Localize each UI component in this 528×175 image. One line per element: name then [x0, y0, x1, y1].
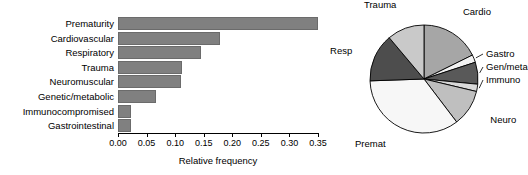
- pie-slice-label: Gen/meta: [486, 61, 528, 72]
- pie-chart-panel: CardioGastroGen/metaImmunoNeuroPrematRes…: [330, 0, 526, 175]
- pie-slice-label: Premat: [355, 138, 386, 149]
- bar-rect: [118, 61, 182, 74]
- x-tick-label: 0.00: [109, 138, 127, 148]
- x-tick-label: 0.10: [166, 138, 184, 148]
- bar-category-label: Genetic/metabolic: [38, 90, 114, 103]
- pie-leader-line: [480, 67, 483, 73]
- x-tick-label: 0.15: [195, 138, 213, 148]
- bar-rect: [118, 46, 201, 59]
- x-tick-label: 0.30: [281, 138, 299, 148]
- bar-category-label: Immunocompromised: [23, 105, 114, 118]
- bar-chart-panel: PrematurityCardiovascularRespiratoryTrau…: [0, 0, 330, 175]
- x-tick-mark: [147, 133, 148, 137]
- bar-category-labels: PrematurityCardiovascularRespiratoryTrau…: [0, 0, 114, 140]
- x-tick-label: 0.20: [224, 138, 242, 148]
- x-tick-mark: [289, 133, 290, 137]
- bar-category-label: Gastrointestinal: [48, 119, 114, 132]
- x-tick-label: 0.25: [252, 138, 270, 148]
- x-tick-mark: [118, 133, 119, 137]
- pie-slice-label: Cardio: [463, 6, 491, 17]
- x-tick-label: 0.35: [309, 138, 327, 148]
- x-tick-mark: [175, 133, 176, 137]
- bar-rect: [118, 75, 181, 88]
- pie-slices: [370, 25, 478, 133]
- bar-category-label: Neuromuscular: [50, 75, 114, 88]
- pie-leader-line: [476, 54, 483, 58]
- x-axis-title: Relative frequency: [118, 155, 318, 166]
- x-tick-mark: [261, 133, 262, 137]
- x-tick-label: 0.05: [138, 138, 156, 148]
- bar-rect: [118, 32, 220, 45]
- bar-plot-area: [118, 0, 326, 140]
- bar-rect: [118, 119, 131, 132]
- pie-slice-label: Gastro: [486, 48, 515, 59]
- bar-rect: [118, 17, 318, 30]
- x-tick-mark: [204, 133, 205, 137]
- pie-slice-label: Immuno: [486, 74, 520, 85]
- pie-leader-line: [479, 80, 483, 88]
- bar-category-label: Trauma: [82, 61, 114, 74]
- x-tick-mark: [318, 133, 319, 137]
- bar-category-label: Respiratory: [65, 46, 114, 59]
- x-tick-mark: [232, 133, 233, 137]
- bar-rect: [118, 90, 156, 103]
- x-axis-line: [118, 133, 318, 134]
- pie-slice-label: Neuro: [490, 114, 516, 125]
- bar-rect: [118, 105, 131, 118]
- pie-slice-label: Trauma: [364, 0, 396, 10]
- pie-slice-label: Resp: [330, 45, 352, 56]
- bar-category-label: Cardiovascular: [51, 32, 114, 45]
- bar-category-label: Prematurity: [65, 17, 114, 30]
